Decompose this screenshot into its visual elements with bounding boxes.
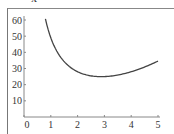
tick-labels: 102030405060012345 [12, 15, 161, 131]
data-curve [45, 19, 158, 77]
y-tick-label: 20 [12, 79, 22, 90]
y-tick-label: 50 [12, 31, 22, 42]
line-chart: 102030405060012345 [0, 0, 174, 134]
x-tick-label: 4 [129, 119, 134, 130]
y-tick-label: 60 [12, 15, 22, 26]
x-tick-label: 1 [48, 119, 53, 130]
y-tick-label: 30 [12, 63, 22, 74]
x-tick-label: 2 [75, 119, 80, 130]
x-tick-label: 0 [25, 119, 30, 130]
chart-axes [24, 16, 160, 117]
x-tick-label: 3 [102, 119, 107, 130]
y-tick-label: 10 [12, 95, 22, 106]
x-tick-label: 5 [156, 119, 161, 130]
y-tick-label: 40 [12, 47, 22, 58]
